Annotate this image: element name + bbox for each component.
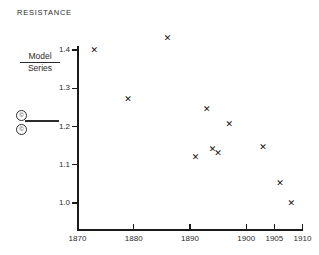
y-tick (72, 126, 77, 127)
x-tick (189, 224, 190, 229)
x-tick-label: 1905 (259, 234, 289, 243)
y-tick-label: 1.0 (48, 198, 70, 207)
data-point: ✕ (214, 149, 223, 158)
resistance-scatter-figure: RESISTANCE Model Series © © 1.01.11.21.3… (0, 0, 319, 255)
x-tick-label: 1890 (175, 234, 205, 243)
data-point: ✕ (191, 153, 200, 162)
x-tick-label: 1910 (288, 234, 318, 243)
x-tick (133, 224, 134, 229)
data-point: ✕ (287, 199, 296, 208)
y-axis-line (77, 46, 79, 231)
data-point: ✕ (202, 105, 211, 114)
y-tick-label: 1.1 (48, 160, 70, 169)
x-tick (77, 224, 78, 229)
x-tick-label: 1900 (231, 234, 261, 243)
plot-area: 1.01.11.21.31.4 187018801890190019051910… (0, 0, 319, 255)
y-tick-label: 1.4 (48, 45, 70, 54)
x-tick (274, 224, 275, 229)
data-point: ✕ (259, 143, 268, 152)
y-tick-label: 1.3 (48, 83, 70, 92)
data-point: ✕ (163, 34, 172, 43)
x-tick-label: 1870 (63, 234, 93, 243)
data-point: ✕ (276, 179, 285, 188)
data-point: ✕ (124, 95, 133, 104)
data-point: ✕ (225, 120, 234, 129)
x-axis-line (77, 229, 303, 231)
y-tick (72, 164, 77, 165)
x-tick-label: 1880 (119, 234, 149, 243)
y-tick (72, 49, 77, 50)
data-point: ✕ (90, 46, 99, 55)
x-tick (302, 224, 303, 229)
y-tick (72, 202, 77, 203)
y-tick-label: 1.2 (48, 122, 70, 131)
y-tick (72, 88, 77, 89)
x-tick (246, 224, 247, 229)
